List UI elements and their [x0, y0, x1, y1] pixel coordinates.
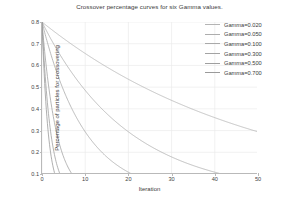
x-tick-mark [128, 173, 129, 176]
legend-item-label: Gamma=0.300 [224, 51, 262, 57]
chart-title: Crossover percentage curves for six Gamm… [0, 3, 299, 10]
y-tick-label: 0.1 [31, 171, 39, 177]
legend-line-icon [205, 72, 220, 73]
legend-item-label: Gamma=0.700 [224, 70, 262, 76]
y-tick-mark [40, 87, 43, 88]
legend-line-icon [205, 63, 220, 64]
x-tick-label: 20 [125, 176, 131, 182]
y-tick-label: 0.8 [31, 19, 39, 25]
y-tick-mark [40, 131, 43, 132]
x-tick-label: 0 [40, 176, 43, 182]
legend-item[interactable]: Gamma=0.300 [205, 49, 294, 59]
x-axis-label: Iteration [42, 186, 257, 192]
y-tick-label: 0.6 [31, 62, 39, 68]
legend-item-label: Gamma=0.050 [224, 31, 262, 37]
y-tick-label: 0.7 [31, 41, 39, 47]
legend-item[interactable]: Gamma=0.050 [205, 30, 294, 40]
x-tick-label: 40 [212, 176, 218, 182]
legend-item[interactable]: Gamma=0.500 [205, 58, 294, 68]
x-tick-label: 10 [82, 176, 88, 182]
y-tick-mark [40, 44, 43, 45]
legend-item-label: Gamma=0.500 [224, 60, 262, 66]
x-tick-mark [42, 173, 43, 176]
legend-line-icon [205, 34, 220, 35]
x-tick-mark [85, 173, 86, 176]
x-tick-mark [258, 173, 259, 176]
y-tick-mark [40, 65, 43, 66]
y-axis-label: Percentage of particles for crossovering [54, 22, 60, 174]
legend-line-icon [205, 53, 220, 54]
y-tick-label: 0.3 [31, 128, 39, 134]
x-tick-mark [172, 173, 173, 176]
legend-line-icon [205, 24, 220, 25]
legend-item[interactable]: Gamma=0.700 [205, 68, 294, 78]
legend-item-label: Gamma=0.100 [224, 41, 262, 47]
legend-item-label: Gamma=0.020 [224, 22, 262, 28]
y-tick-label: 0.5 [31, 84, 39, 90]
chart-figure: Crossover percentage curves for six Gamm… [0, 0, 299, 209]
y-tick-mark [40, 22, 43, 23]
y-tick-label: 0.2 [31, 149, 39, 155]
x-tick-label: 50 [255, 176, 261, 182]
x-tick-label: 30 [168, 176, 174, 182]
x-tick-mark [215, 173, 216, 176]
legend-item[interactable]: Gamma=0.020 [205, 20, 294, 30]
chart-legend: Gamma=0.020Gamma=0.050Gamma=0.100Gamma=0… [203, 18, 296, 81]
y-tick-mark [40, 152, 43, 153]
y-tick-label: 0.4 [31, 106, 39, 112]
legend-item[interactable]: Gamma=0.100 [205, 39, 294, 49]
legend-line-icon [205, 43, 220, 44]
y-tick-mark [40, 109, 43, 110]
